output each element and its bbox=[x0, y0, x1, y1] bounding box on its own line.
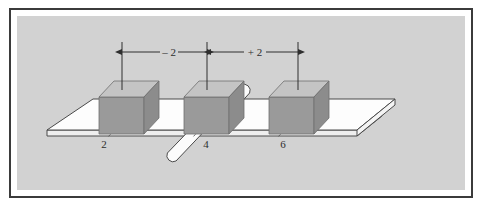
dimension-left-label: – 2 bbox=[161, 46, 176, 58]
station-label-2: 2 bbox=[101, 138, 107, 150]
scene-drawing: – 2 + 2 2 4 6 bbox=[0, 0, 484, 208]
block-1 bbox=[99, 81, 159, 134]
block-3 bbox=[269, 81, 329, 134]
dimension-left: – 2 bbox=[122, 46, 207, 58]
dimension-right-label: + 2 bbox=[248, 46, 262, 58]
figure-root: – 2 + 2 2 4 6 bbox=[0, 0, 484, 208]
block-2 bbox=[184, 81, 244, 134]
dimension-right: + 2 bbox=[211, 46, 298, 58]
station-label-4: 4 bbox=[203, 138, 209, 150]
station-label-6: 6 bbox=[280, 138, 286, 150]
